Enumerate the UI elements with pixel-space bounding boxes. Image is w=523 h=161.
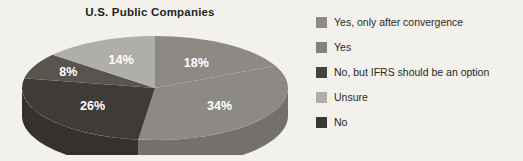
legend-swatch-icon <box>316 17 327 28</box>
legend-item-unsure[interactable]: Unsure <box>316 85 523 110</box>
pie-slice-label: 8% <box>59 65 77 79</box>
legend-swatch-icon <box>316 92 327 103</box>
pie-slice-label: 34% <box>207 99 232 113</box>
legend-swatch-icon <box>316 67 327 78</box>
chart-page: U.S. Public Companies 18%34%26%8%14% <box>0 0 523 161</box>
legend-item-label: No <box>334 117 347 128</box>
pie-chart-graphic: 18%34%26%8%14% <box>22 33 288 155</box>
pie-slice-label: 26% <box>80 99 105 113</box>
legend-item-label: Yes, only after convergence <box>334 17 463 28</box>
legend-item-label: Unsure <box>334 92 368 103</box>
legend-item-label: Yes <box>334 42 351 53</box>
pie-svg: 18%34%26%8%14% <box>22 33 288 155</box>
pie-slice-label: 14% <box>108 53 133 67</box>
pie-slice-label: 18% <box>184 56 209 70</box>
legend-item-no[interactable]: No <box>316 110 523 135</box>
legend-item-no-but-ifrs-should-be-an-option[interactable]: No, but IFRS should be an option <box>316 60 523 85</box>
chart-legend: Yes, only after convergence Yes No, but … <box>316 10 523 135</box>
legend-item-yes[interactable]: Yes <box>316 35 523 60</box>
legend-swatch-icon <box>316 117 327 128</box>
chart-title: U.S. Public Companies <box>0 6 300 18</box>
pie-chart-panel: U.S. Public Companies 18%34%26%8%14% <box>0 0 300 161</box>
legend-swatch-icon <box>316 42 327 53</box>
pie-top-face <box>22 36 288 140</box>
legend-item-yes-only-after-convergence[interactable]: Yes, only after convergence <box>316 10 523 35</box>
legend-item-label: No, but IFRS should be an option <box>334 67 489 78</box>
